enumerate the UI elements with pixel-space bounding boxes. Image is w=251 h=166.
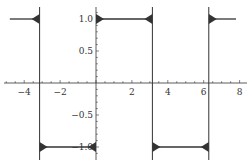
x-tick-label: −2 xyxy=(53,87,66,97)
y-tick-label: −0.5 xyxy=(71,110,93,120)
square-wave-chart: −4−224681.00.5−0.5−1.0 xyxy=(0,0,251,166)
gibbs-spike xyxy=(32,14,40,24)
x-tick-label: 4 xyxy=(165,87,171,97)
plot-series xyxy=(10,7,236,160)
gibbs-spike xyxy=(40,142,48,152)
gibbs-spike xyxy=(201,142,209,152)
axes xyxy=(4,7,247,160)
gibbs-spike xyxy=(96,14,104,24)
x-tick-label: −4 xyxy=(18,87,32,97)
x-tick-label: 8 xyxy=(237,87,243,97)
y-tick-label: 0.5 xyxy=(79,46,94,56)
x-tick-label: 2 xyxy=(129,87,135,97)
x-tick-label: 6 xyxy=(201,87,207,97)
gibbs-spike xyxy=(152,142,160,152)
gibbs-spike xyxy=(144,14,152,24)
y-tick-label: 1.0 xyxy=(79,14,94,24)
gibbs-spike xyxy=(209,14,217,24)
